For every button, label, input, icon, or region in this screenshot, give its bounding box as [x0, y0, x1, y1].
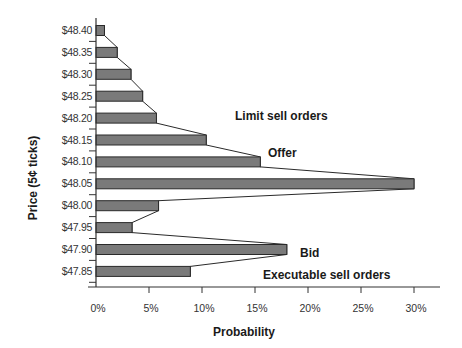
distribution-outline [104, 26, 414, 277]
bar-48-00 [96, 201, 159, 211]
y-tick-label: $48.35 [62, 46, 93, 58]
annotation-executable-sell-orders: Executable sell orders [263, 268, 391, 282]
y-tick-label: $47.95 [62, 221, 93, 233]
y-tick-label: $48.20 [62, 112, 93, 124]
annotation-bid: Bid [300, 246, 319, 260]
x-tick-label: 20% [299, 302, 320, 314]
annotation-limit-sell-orders: Limit sell orders [235, 109, 328, 123]
y-tick-label: $48.10 [62, 155, 93, 167]
y-tick-label: $48.40 [62, 24, 93, 36]
x-tick-label: 15% [246, 302, 267, 314]
x-tick-label: 0% [90, 302, 105, 314]
y-tick-label: $48.00 [62, 199, 93, 211]
probability-price-chart: $48.40$48.35$48.30$48.25$48.20$48.15$48.… [0, 0, 462, 348]
y-tick-label: $48.15 [62, 134, 93, 146]
y-axis: $48.40$48.35$48.30$48.25$48.20$48.15$48.… [62, 18, 96, 287]
bar-48-20 [96, 113, 156, 123]
annotations-group: Limit sell ordersOfferBidExecutable sell… [235, 109, 391, 282]
bar-48-10 [96, 157, 260, 167]
bar-48-15 [96, 135, 206, 145]
x-axis: 0%5%10%15%20%25%30% [88, 287, 440, 314]
y-axis-title: Price (5¢ ticks) [26, 136, 40, 221]
bar-47-85 [96, 266, 190, 276]
bar-48-40 [96, 26, 104, 36]
bar-47-95 [96, 223, 132, 233]
y-tick-label: $47.85 [62, 265, 93, 277]
y-tick-label: $48.05 [62, 177, 93, 189]
distribution-outline-line [104, 26, 414, 277]
x-tick-label: 30% [405, 302, 426, 314]
y-tick-label: $48.25 [62, 90, 93, 102]
x-tick-label: 5% [143, 302, 158, 314]
bar-48-30 [96, 69, 131, 79]
x-tick-label: 25% [352, 302, 373, 314]
x-tick-label: 10% [193, 302, 214, 314]
y-tick-label: $47.90 [62, 243, 93, 255]
bar-48-25 [96, 91, 143, 101]
x-axis-title: Probability [213, 325, 275, 339]
annotation-offer: Offer [268, 146, 297, 160]
bars-group [96, 26, 414, 277]
bar-47-90 [96, 245, 287, 255]
bar-48-05 [96, 179, 414, 189]
y-tick-label: $48.30 [62, 68, 93, 80]
bar-48-35 [96, 47, 117, 57]
